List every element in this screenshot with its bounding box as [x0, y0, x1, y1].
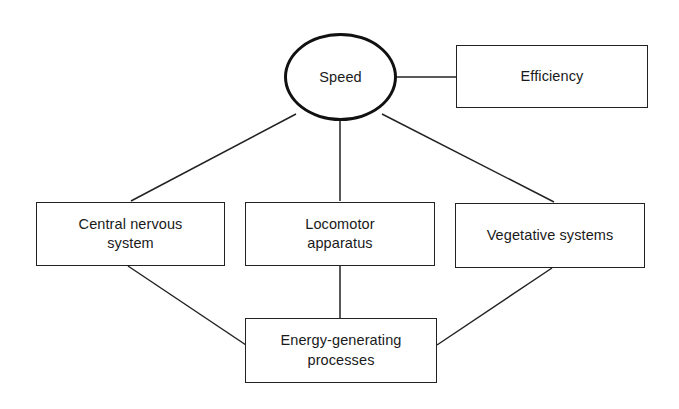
node-vegetative-systems[interactable]: Vegetative systems: [455, 203, 645, 268]
node-speed-label: Speed: [315, 69, 365, 85]
connector-cns-energy: [128, 266, 246, 345]
node-energy-generating-processes-label: Energy-generating processes: [277, 331, 406, 369]
node-speed[interactable]: Speed: [284, 33, 397, 121]
diagram-canvas: Speed Efficiency Central nervous system …: [0, 0, 679, 409]
node-locomotor-apparatus[interactable]: Locomotor apparatus: [245, 202, 435, 266]
node-central-nervous-system-label: Central nervous system: [75, 215, 187, 253]
node-central-nervous-system[interactable]: Central nervous system: [36, 202, 225, 266]
node-efficiency-label: Efficiency: [517, 67, 588, 86]
node-efficiency[interactable]: Efficiency: [456, 45, 648, 108]
connector-vegetative-energy: [437, 268, 552, 345]
connector-speed-vegetative: [382, 114, 554, 202]
node-vegetative-systems-label: Vegetative systems: [483, 226, 618, 245]
connector-speed-cns: [131, 114, 296, 201]
node-energy-generating-processes[interactable]: Energy-generating processes: [245, 318, 437, 383]
node-locomotor-apparatus-label: Locomotor apparatus: [301, 215, 378, 253]
